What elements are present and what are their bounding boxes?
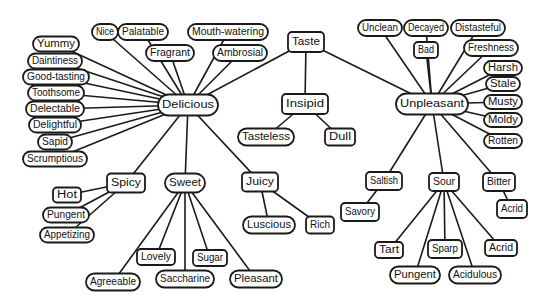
node-label: Distasteful — [455, 22, 501, 33]
node-distasteful: Distasteful — [451, 20, 505, 36]
node-label: Spicy — [111, 176, 142, 188]
node-label: Freshness — [468, 42, 514, 53]
node-sweet: Sweet — [165, 174, 205, 193]
node-label: Pungent — [394, 268, 436, 280]
node-label: Harsh — [488, 62, 518, 73]
node-label: Tart — [379, 244, 399, 255]
node-label: Saccharine — [160, 272, 210, 284]
node-tasteless: Tasteless — [238, 129, 294, 146]
node-nice: Nice — [92, 24, 118, 40]
node-label: Juicy — [246, 175, 275, 187]
node-label: Delectable — [30, 103, 80, 114]
node-label: Rich — [310, 218, 330, 230]
node-label: Palatable — [122, 26, 164, 37]
edge-sour-acidulous — [444, 182, 475, 275]
node-sapid: Sapid — [38, 135, 72, 150]
node-bad: Bad — [414, 42, 438, 58]
node-pleasant: Pleasant — [230, 271, 282, 288]
node-label: Luscious — [247, 218, 291, 230]
node-acrid-s: Acrid — [485, 240, 517, 256]
node-savory: Savory — [341, 203, 379, 221]
node-label: Unpleasant — [400, 97, 464, 109]
node-label: Delightful — [33, 119, 77, 130]
node-sour: Sour — [429, 173, 459, 191]
node-harsh: Harsh — [484, 61, 522, 75]
edge-sour-sparp — [444, 182, 445, 249]
edge-sweet-sugar — [185, 183, 210, 258]
node-freshness: Freshness — [464, 40, 518, 56]
node-pungent-l: Pungent — [43, 208, 89, 223]
node-label: Decayed — [408, 22, 444, 33]
node-acidulous: Acidulous — [449, 267, 501, 284]
node-label: Lovely — [141, 251, 171, 262]
node-label: Hot — [57, 189, 77, 200]
node-scrumptious: Scrumptious — [23, 152, 87, 167]
node-label: Rotten — [488, 135, 518, 146]
node-luscious: Luscious — [243, 217, 295, 234]
node-dull: Dull — [325, 129, 355, 146]
node-good-tasting: Good-tasting — [23, 70, 89, 85]
node-sparp: Sparp — [428, 240, 462, 258]
node-toothsome: Toothsome — [28, 86, 84, 101]
node-label: Tasteless — [242, 130, 290, 142]
node-label: Sugar — [197, 252, 224, 263]
node-label: Delicious — [162, 98, 215, 110]
node-label: Unclean — [362, 22, 398, 33]
node-label: Ambrosial — [217, 47, 263, 58]
edge-sweet-lovely — [156, 183, 185, 257]
node-pungent-s: Pungent — [390, 267, 440, 284]
node-rotten: Rotten — [484, 134, 522, 148]
node-appetizing: Appetizing — [40, 228, 94, 243]
node-bitter: Bitter — [483, 173, 515, 191]
node-label: Sweet — [169, 176, 201, 188]
node-delicious: Delicious — [158, 95, 218, 116]
node-label: Mouth-watering — [192, 26, 264, 37]
node-lovely: Lovely — [137, 249, 175, 265]
node-label: Fragrant — [150, 47, 190, 58]
node-label: Scrumptious — [27, 153, 83, 164]
node-delectable: Delectable — [26, 102, 84, 117]
node-label: Acidulous — [453, 268, 497, 280]
node-label: Toothsome — [32, 87, 80, 98]
node-label: Daintiness — [32, 55, 78, 66]
node-rich: Rich — [306, 217, 334, 234]
node-label: Appetizing — [44, 229, 90, 240]
node-spicy: Spicy — [107, 174, 145, 193]
node-sugar: Sugar — [193, 250, 227, 266]
node-label: Good-tasting — [27, 71, 85, 82]
node-mouth-watering: Mouth-watering — [188, 24, 268, 40]
node-label: Pungent — [47, 209, 85, 220]
node-label: Moldy — [488, 114, 518, 125]
nodes-layer: TasteDeliciousInsipidUnpleasantNicePalat… — [23, 20, 527, 291]
node-saccharine: Saccharine — [156, 271, 214, 288]
node-label: Yummy — [37, 38, 75, 49]
node-moldy: Moldy — [484, 113, 522, 127]
node-fragrant: Fragrant — [146, 45, 194, 61]
node-saltish: Saltish — [366, 172, 402, 190]
node-label: Agreeable — [90, 275, 136, 287]
node-hot: Hot — [53, 188, 81, 203]
node-unpleasant: Unpleasant — [396, 94, 468, 115]
node-label: Sour — [433, 175, 455, 187]
node-insipid: Insipid — [282, 94, 328, 114]
node-label: Dull — [329, 130, 351, 142]
node-label: Pleasant — [234, 272, 278, 284]
node-stale: Stale — [486, 77, 520, 91]
node-label: Insipid — [286, 97, 324, 109]
node-label: Acrid — [501, 202, 523, 214]
node-acrid-b: Acrid — [497, 200, 527, 218]
node-delightful: Delightful — [29, 118, 81, 133]
node-label: Sparp — [432, 242, 458, 254]
node-daintiness: Daintiness — [28, 54, 82, 69]
node-palatable: Palatable — [118, 24, 168, 40]
node-label: Sapid — [42, 136, 68, 147]
node-agreeable: Agreeable — [86, 274, 140, 291]
node-label: Saltish — [370, 174, 398, 186]
node-label: Nice — [96, 26, 114, 37]
node-label: Stale — [490, 78, 516, 89]
node-taste: Taste — [288, 32, 324, 52]
edge-delicious-sweet — [185, 105, 188, 183]
node-juicy: Juicy — [242, 173, 278, 192]
node-label: Bitter — [487, 175, 511, 187]
node-label: Taste — [292, 35, 320, 47]
